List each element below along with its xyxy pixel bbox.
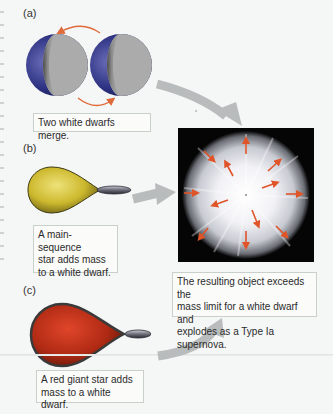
arrow-a-to-result-icon	[157, 84, 242, 126]
result-caption-line-3: explodes as a Type Ia supernova.	[177, 326, 312, 351]
result-caption: The resulting object exceeds the mass li…	[172, 272, 317, 317]
supernova-illustration	[178, 128, 314, 262]
result-caption-line-1: The resulting object exceeds the	[177, 276, 312, 301]
arrow-b-to-result-icon	[133, 183, 176, 205]
result-caption-line-2: mass limit for a white dwarf and	[177, 301, 312, 326]
